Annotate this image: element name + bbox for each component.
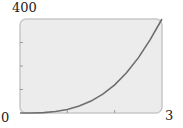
chart-plot bbox=[0, 0, 183, 128]
plot-area bbox=[20, 19, 162, 113]
